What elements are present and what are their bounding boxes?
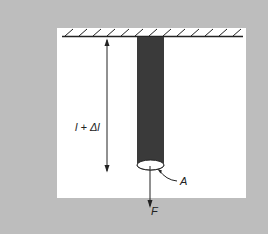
area-leader-line: [158, 169, 178, 181]
force-arrow: [148, 166, 153, 208]
length-label: l + Δl: [75, 121, 100, 133]
area-label: A: [180, 175, 187, 187]
force-label: F: [151, 205, 158, 217]
length-arrow: [105, 39, 110, 173]
rod-diagram: [0, 0, 268, 234]
rod: [137, 37, 164, 170]
fixed-support-ceiling: [62, 29, 243, 37]
